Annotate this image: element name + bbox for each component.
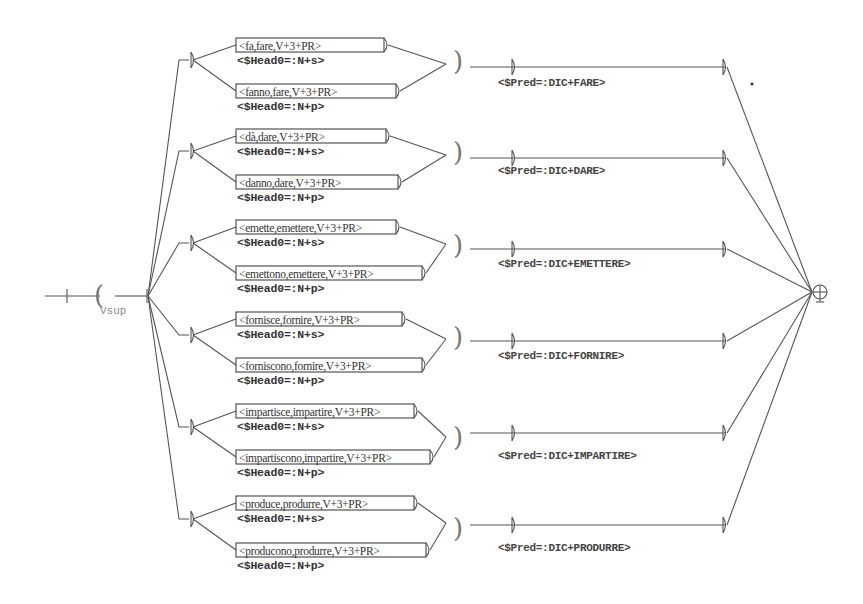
box-output-plural: <$Head0=:N+p> [237,101,324,113]
box-label-plural[interactable]: <producono,produrre,V+3+PR> [239,545,380,558]
pred-output-label[interactable]: <$Pred=:DIC+FORNIRE> [498,350,624,362]
variable-close-paren: ) [453,515,463,541]
pred-output-label[interactable]: <$Pred=:DIC+PRODURRE> [498,542,630,554]
pred-output-label[interactable]: <$Pred=:DIC+FARE> [498,77,605,89]
variable-close-paren: ) [453,324,463,350]
box-output-singular: <$Head0=:N+s> [237,237,324,249]
box-output-singular: <$Head0=:N+s> [237,146,324,158]
box-label-singular[interactable]: <fa,fare,V+3+PR> [239,40,321,53]
graph-canvas: ( Vsup <fa,fare,V+3+PR> <$Head0=:N+s> <f… [0,0,863,604]
box-label-singular[interactable]: <produce,produrre,V+3+PR> [239,498,368,511]
box-output-singular: <$Head0=:N+s> [237,421,324,433]
graph-wires [0,0,863,604]
box-output-plural: <$Head0=:N+p> [237,467,324,479]
box-label-plural[interactable]: <forniscono,fornire,V+3+PR> [239,360,371,373]
box-label-singular[interactable]: <fornisce,fornire,V+3+PR> [239,314,360,327]
box-label-singular[interactable]: <impartisce,impartire,V+3+PR> [239,406,380,419]
box-label-plural[interactable]: <impartiscono,impartire,V+3+PR> [239,452,392,465]
box-output-singular: <$Head0=:N+s> [237,513,324,525]
box-label-singular[interactable]: <dà,dare,V+3+PR> [239,131,325,144]
pred-output-label[interactable]: <$Pred=:DIC+IMPARTIRE> [498,450,637,462]
variable-name-label: Vsup [100,305,126,317]
box-label-plural[interactable]: <fanno,fare,V+3+PR> [239,86,337,99]
box-output-plural: <$Head0=:N+p> [237,192,324,204]
box-output-singular: <$Head0=:N+s> [237,329,324,341]
pred-output-label[interactable]: <$Pred=:DIC+EMETTERE> [498,258,630,270]
variable-close-paren: ) [453,139,463,165]
box-label-plural[interactable]: <danno,dare,V+3+PR> [239,177,341,190]
pred-output-label[interactable]: <$Pred=:DIC+DARE> [498,165,605,177]
box-label-plural[interactable]: <emettono,emettere,V+3+PR> [239,268,373,281]
final-state-icon[interactable] [812,284,830,308]
box-output-singular: <$Head0=:N+s> [237,55,324,67]
variable-close-paren: ) [453,232,463,258]
variable-close-paren: ) [453,48,463,74]
box-label-singular[interactable]: <emette,emettere,V+3+PR> [239,222,362,235]
box-output-plural: <$Head0=:N+p> [237,283,324,295]
box-output-plural: <$Head0=:N+p> [237,375,324,387]
box-output-plural: <$Head0=:N+p> [237,560,324,572]
variable-close-paren: ) [453,424,463,450]
